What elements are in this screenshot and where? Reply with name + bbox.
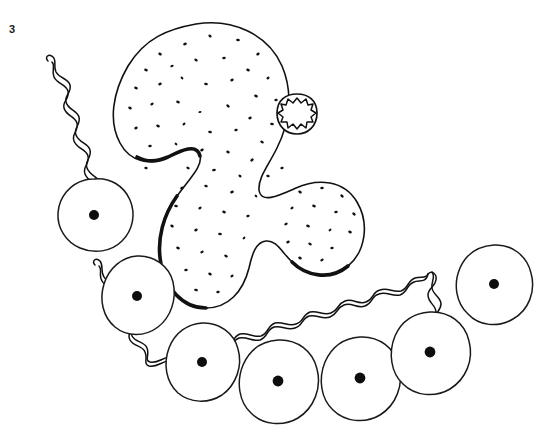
cell-nucleus-6 [425, 347, 436, 358]
cell-nucleus-4 [273, 376, 284, 387]
list-item [391, 312, 470, 395]
list-item [166, 323, 240, 401]
list-item [321, 337, 400, 421]
cell-nucleus-2 [132, 291, 142, 301]
figure-canvas: 3 [0, 0, 551, 442]
cell-nucleus-7 [489, 279, 499, 289]
list-item [456, 245, 532, 325]
cell-nucleus-1 [89, 210, 99, 220]
list-item [239, 340, 318, 424]
list-item [102, 256, 174, 335]
cell-nucleus-5 [355, 373, 366, 384]
figure-illustration [0, 0, 551, 442]
list-item [58, 179, 133, 252]
scalloped-ring-structure [277, 94, 317, 134]
cell-nucleus-3 [197, 357, 207, 367]
